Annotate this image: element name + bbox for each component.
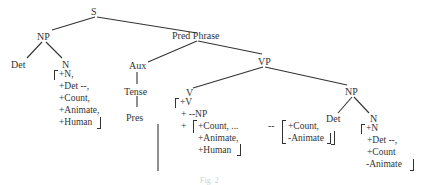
feature: +N, [59, 69, 74, 81]
bracket-v-subject-close [237, 144, 241, 156]
node-np-object: NP [345, 86, 358, 98]
bracket-v-object-open [282, 120, 286, 144]
feature: +N [366, 123, 378, 135]
feature-v-head: +V [180, 97, 192, 109]
feature-v-object: -Animate [288, 133, 324, 145]
figure-caption: Fig. 2 [200, 176, 219, 185]
feature-v-frame: + --NP [181, 109, 207, 121]
feature-v-dash: -- [268, 121, 274, 133]
feature-v-subject: +Count, ... [198, 121, 238, 133]
feature-v-object: +Count, [288, 121, 319, 133]
feature: -Animate [366, 159, 402, 171]
feature: +Animate, [59, 105, 99, 117]
feature: +Det --, [367, 135, 397, 147]
node-aux: Aux [129, 60, 146, 72]
node-det-object: Det [326, 113, 340, 125]
node-np-subject: NP [37, 31, 50, 43]
bracket-n1-close [97, 117, 101, 129]
bracket-v-subject-open [193, 120, 197, 133]
bracket-n2-open [361, 124, 365, 134]
bracket-v-open [175, 98, 179, 108]
node-pres: Pres [126, 112, 143, 124]
bracket-n2-close [410, 159, 414, 171]
feature-v-plus: + [181, 121, 186, 133]
node-pred-phrase: Pred Phrase [172, 30, 220, 42]
feature: +Count, [59, 93, 90, 105]
feature-v-subject: +Human [198, 145, 231, 157]
bracket-v-close [331, 131, 335, 145]
feature-v-subject: +Animate, [198, 133, 238, 145]
feature: +Human [59, 117, 92, 129]
bracket-n1-open [54, 70, 58, 80]
feature: +Det --, [59, 81, 89, 93]
node-vp: VP [258, 56, 271, 68]
node-det-subject: Det [11, 59, 25, 71]
node-s: S [91, 6, 97, 18]
node-tense: Tense [124, 86, 147, 98]
feature: +Count [367, 147, 396, 159]
